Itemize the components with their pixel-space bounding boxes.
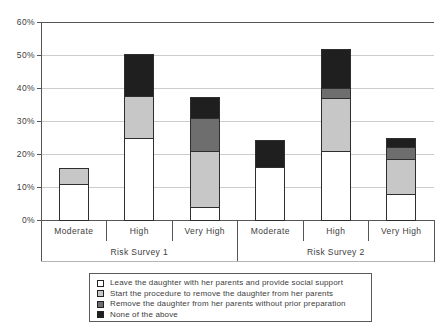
legend-item: None of the above [97, 310, 371, 321]
category-label: Very High [172, 226, 238, 236]
bar-segment [256, 167, 284, 220]
legend: Leave the daughter with her parents and … [89, 273, 372, 322]
gridline [41, 88, 434, 89]
y-axis-label: 20% [4, 149, 35, 159]
bar-segment [191, 98, 219, 118]
bar-segment [322, 151, 350, 220]
legend-label: None of the above [110, 310, 178, 320]
y-axis-label: 50% [4, 50, 35, 60]
gridline [41, 187, 434, 188]
legend-color-swatch-icon [97, 301, 104, 308]
category-label: Moderate [41, 226, 107, 236]
bar [321, 49, 351, 221]
bar-segment [191, 151, 219, 207]
legend-color-swatch-icon [97, 290, 104, 297]
bar [190, 97, 220, 221]
category-separator [368, 220, 369, 241]
bar-segment [322, 50, 350, 88]
bar-segment [60, 169, 88, 184]
bar-segment [256, 141, 284, 167]
category-separator [172, 220, 173, 241]
y-axis-label: 60% [4, 17, 35, 27]
legend-color-swatch-icon [97, 311, 104, 318]
bar-segment [191, 207, 219, 220]
group-separator [41, 220, 42, 262]
group-label: Risk Survey 1 [41, 247, 238, 257]
gridline [41, 154, 434, 155]
bar [59, 168, 89, 221]
bar-segment [387, 159, 415, 194]
bar-segment [60, 184, 88, 220]
legend-label: Leave the daughter with her parents and … [110, 278, 343, 288]
bar-segment [387, 194, 415, 220]
bar-segment [125, 96, 153, 137]
gridline [41, 121, 434, 122]
bar-segment [125, 55, 153, 96]
legend-label: Remove the daughter from her parents wit… [110, 299, 346, 309]
legend-color-swatch-icon [97, 280, 104, 287]
y-axis-label: 10% [4, 182, 35, 192]
bar-segment [387, 139, 415, 147]
stacked-bar-chart-figure: Leave the daughter with her parents and … [0, 0, 441, 335]
category-label: High [303, 226, 369, 236]
bar-segment [125, 138, 153, 221]
bar-segment [322, 88, 350, 98]
legend-item: Start the procedure to remove the daught… [97, 289, 371, 300]
y-axis-label: 40% [4, 83, 35, 93]
category-separator [106, 220, 107, 241]
bar-segment [322, 98, 350, 151]
category-label: Moderate [238, 226, 304, 236]
legend-label: Start the procedure to remove the daught… [110, 289, 333, 299]
bar-segment [191, 118, 219, 151]
legend-item: Leave the daughter with her parents and … [97, 278, 371, 289]
y-axis-label: 0% [4, 215, 35, 225]
bar-segment [387, 147, 415, 159]
category-separator [303, 220, 304, 241]
group-label: Risk Survey 2 [238, 247, 435, 257]
gridline [41, 55, 434, 56]
axis-frame-bottom-line [41, 261, 434, 262]
group-separator [434, 220, 435, 262]
category-label: High [107, 226, 173, 236]
y-axis-label: 30% [4, 116, 35, 126]
category-label: Very High [369, 226, 435, 236]
bar [255, 140, 285, 221]
bar [386, 138, 416, 221]
group-separator [237, 220, 238, 262]
bar [124, 54, 154, 221]
legend-rows: Leave the daughter with her parents and … [97, 278, 371, 320]
gridline [41, 22, 434, 23]
legend-item: Remove the daughter from her parents wit… [97, 299, 371, 310]
